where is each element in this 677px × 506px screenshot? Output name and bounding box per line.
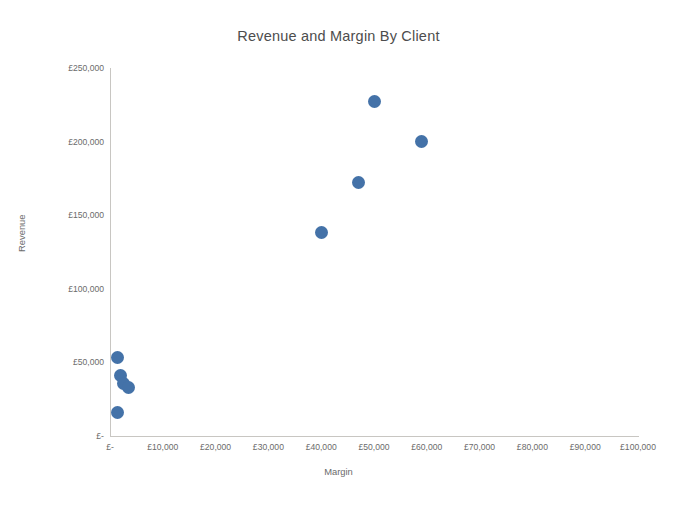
x-axis-tick-label: £40,000 xyxy=(306,442,337,452)
plot-area xyxy=(110,68,638,436)
x-axis-tick-label: £20,000 xyxy=(200,442,231,452)
x-axis-tick-label: £50,000 xyxy=(358,442,389,452)
y-axis-tick-label: £250,000 xyxy=(34,63,104,73)
x-axis-tick-label: £60,000 xyxy=(411,442,442,452)
x-axis-tick-label: £70,000 xyxy=(464,442,495,452)
y-axis-tick-label: £- xyxy=(34,431,104,441)
data-point xyxy=(352,176,365,189)
scatter-chart: Revenue and Margin By Client £-£50,000£1… xyxy=(0,0,677,506)
y-axis-tick-labels: £-£50,000£100,000£150,000£200,000£250,00… xyxy=(30,0,104,506)
y-axis-tick-label: £100,000 xyxy=(34,284,104,294)
data-point xyxy=(111,351,124,364)
data-point xyxy=(368,95,381,108)
data-point xyxy=(415,135,428,148)
y-axis-title: Revenue xyxy=(16,214,27,252)
y-axis-tick-label: £50,000 xyxy=(34,357,104,367)
y-axis-tick-label: £150,000 xyxy=(34,210,104,220)
x-axis-tick-label: £30,000 xyxy=(253,442,284,452)
x-axis-tick-label: £10,000 xyxy=(147,442,178,452)
data-point xyxy=(122,381,135,394)
data-point xyxy=(111,406,124,419)
x-axis-tick-label: £- xyxy=(106,442,114,452)
x-axis-tick-label: £100,000 xyxy=(620,442,656,452)
x-axis-tick-label: £80,000 xyxy=(517,442,548,452)
y-axis-tick-label: £200,000 xyxy=(34,137,104,147)
data-point xyxy=(315,226,328,239)
x-axis-tick-label: £90,000 xyxy=(570,442,601,452)
x-axis-line xyxy=(110,436,639,437)
x-axis-title: Margin xyxy=(0,466,677,477)
